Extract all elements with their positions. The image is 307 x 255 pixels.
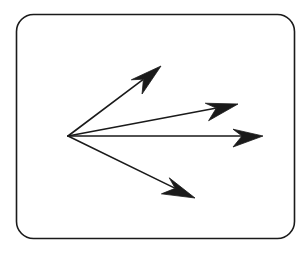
diagram-canvas bbox=[0, 0, 307, 255]
vector-arrows-diagram bbox=[0, 0, 307, 255]
diagram-background bbox=[0, 0, 307, 255]
